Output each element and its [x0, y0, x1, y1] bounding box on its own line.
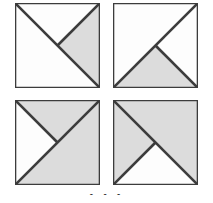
cell-bottom-left	[15, 100, 100, 185]
tiling-grid	[0, 0, 213, 203]
figure-root: • • •	[0, 0, 213, 203]
cell-top-left	[15, 3, 100, 88]
cell-top-right	[113, 3, 198, 88]
caption-text: • • •	[0, 194, 213, 203]
cell-bottom-right	[113, 100, 198, 185]
caption-strip-clipped: • • •	[0, 194, 213, 203]
